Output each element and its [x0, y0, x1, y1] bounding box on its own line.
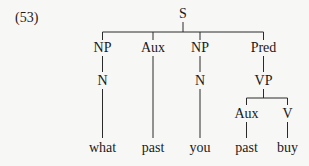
leaf-buy: buy [277, 140, 298, 156]
node-np-2: NP [191, 40, 209, 56]
node-n-2: N [195, 73, 205, 89]
leaf-past-2: past [235, 140, 258, 156]
leaf-you: you [190, 140, 211, 156]
node-s: S [179, 6, 187, 22]
node-pred: Pred [251, 40, 277, 56]
node-np-1: NP [94, 40, 112, 56]
leaf-what: what [89, 140, 116, 156]
node-v: V [282, 106, 292, 122]
node-vp: VP [255, 73, 273, 89]
node-aux-1: Aux [141, 40, 165, 56]
node-n-1: N [97, 73, 107, 89]
leaf-past-1: past [142, 140, 165, 156]
node-aux-2: Aux [234, 106, 258, 122]
